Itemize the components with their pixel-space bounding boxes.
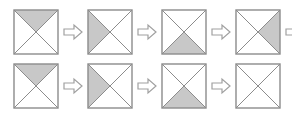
right-arrow-icon [138, 25, 156, 39]
sequence-row-bottom [0, 58, 292, 114]
shaded-triangle-right [258, 10, 280, 54]
arrow-bottom-row-3 [210, 75, 232, 97]
square-none-shaded [235, 63, 281, 109]
square-top-shaded [13, 9, 59, 55]
arrow-top-row-trailing [284, 21, 292, 43]
square-left-shaded [87, 63, 133, 109]
arrow-top-row-1 [62, 21, 84, 43]
arrow-top-row-2 [136, 21, 158, 43]
arrow-bottom-row-2 [136, 75, 158, 97]
shaded-triangle-left [88, 64, 110, 108]
sequence-puzzle-figure [0, 0, 292, 122]
square-bottom-shaded [161, 63, 207, 109]
square-bottom-shaded [161, 9, 207, 55]
shaded-triangle-bottom [162, 86, 206, 108]
shaded-triangle-top [14, 10, 58, 32]
right-arrow-icon [64, 79, 82, 93]
arrow-top-row-3 [210, 21, 232, 43]
square-right-shaded [235, 9, 281, 55]
right-arrow-icon [212, 25, 230, 39]
right-arrow-icon [212, 79, 230, 93]
arrow-bottom-row-1 [62, 75, 84, 97]
right-arrow-icon [138, 79, 156, 93]
shaded-triangle-top [14, 64, 58, 86]
square-left-shaded [87, 9, 133, 55]
right-arrow-icon [64, 25, 82, 39]
right-arrow-icon [286, 25, 292, 39]
shaded-triangle-left [88, 10, 110, 54]
square-top-shaded [13, 63, 59, 109]
shaded-triangle-bottom [162, 32, 206, 54]
sequence-row-top [0, 4, 292, 60]
